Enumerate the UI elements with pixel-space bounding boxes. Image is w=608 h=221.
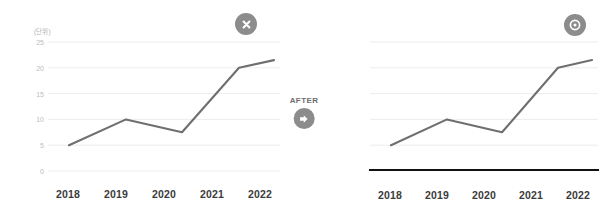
y-tick-label: 20 xyxy=(36,64,44,71)
x-tick-label: 2022 xyxy=(558,189,598,201)
y-tick-label: 5 xyxy=(40,142,44,149)
plot-area-before xyxy=(48,42,280,171)
data-series-line-before xyxy=(69,60,274,145)
x-axis-ticks-before: 2018 2019 2020 2021 2022 xyxy=(48,188,280,200)
x-tick-label: 2020 xyxy=(464,189,504,201)
gridlines-after xyxy=(370,42,598,145)
y-tick-label: 25 xyxy=(36,39,44,46)
y-tick-label: 10 xyxy=(36,116,44,123)
after-label: AFTER xyxy=(290,96,319,105)
chart-panel-after: (단위) 25 20 15 10 5 0 2018 xyxy=(320,0,608,221)
y-axis-ticks-before: 25 20 15 10 5 0 xyxy=(30,42,44,171)
x-tick-label: 2021 xyxy=(192,188,232,200)
x-tick-label: 2021 xyxy=(511,189,551,201)
x-tick-label: 2022 xyxy=(240,188,280,200)
plot-area-after xyxy=(370,42,598,171)
x-axis-ticks-after: 2018 2019 2020 2021 2022 xyxy=(370,189,598,201)
x-mark-icon xyxy=(235,13,257,35)
x-tick-label: 2019 xyxy=(96,188,136,200)
after-indicator: AFTER xyxy=(290,96,319,129)
transition-connector: AFTER xyxy=(288,0,320,221)
y-tick-label: 15 xyxy=(36,90,44,97)
x-tick-label: 2018 xyxy=(370,189,410,201)
arrow-right-icon xyxy=(293,108,314,129)
x-tick-label: 2018 xyxy=(48,188,88,200)
x-tick-label: 2020 xyxy=(144,188,184,200)
gridlines-before xyxy=(48,42,280,171)
chart-panel-before: (단위) 25 20 15 10 5 0 20 xyxy=(0,0,288,221)
x-tick-label: 2019 xyxy=(417,189,457,201)
unit-caption-before: (단위) xyxy=(34,26,51,36)
before-after-comparison: (단위) 25 20 15 10 5 0 20 xyxy=(0,0,608,221)
y-tick-label: 0 xyxy=(40,168,44,175)
circle-mark-icon xyxy=(564,14,586,36)
data-series-line-after xyxy=(391,60,592,145)
